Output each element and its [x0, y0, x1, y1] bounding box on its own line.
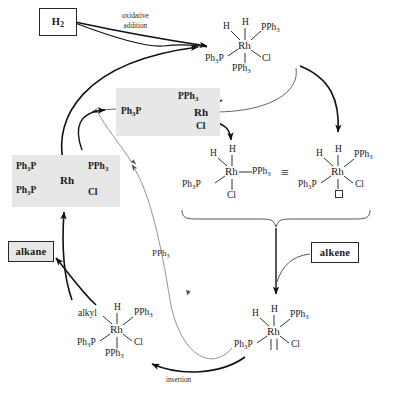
dihydride6-ligand-cl: Cl	[262, 54, 271, 64]
dihydrideV-ligand-h-left: H	[316, 149, 323, 159]
alkylC-ligand-alkyl: alkyl	[78, 309, 97, 319]
alkeneC-ligand-pph3: PPh3	[290, 310, 309, 320]
dihydrideV-ligand-pph3: PPh3	[354, 150, 373, 160]
catalyst-ligand-ph3p-lower: Ph3P	[16, 186, 36, 196]
annotation-insertion: insertion	[166, 376, 191, 386]
dihydride5-ligand-ph3p: Ph3P	[182, 180, 201, 190]
dihydrideV-ligand-ph3p: Ph3P	[298, 180, 317, 190]
vacant-coordination-site	[335, 190, 343, 198]
catalyst-metal-center: Rh	[60, 175, 74, 186]
alkeneC-ligand-h-top: H	[271, 305, 278, 315]
dihydride5-metal-center: Rh	[225, 166, 238, 177]
dihydride5-ligand-cl: Cl	[227, 191, 236, 201]
dihydride6-ligand-pph3-bottom: PPh3	[232, 64, 251, 74]
dihydride5-ligand-h-left: H	[210, 149, 217, 159]
dihydride6-ligand-h-top: H	[242, 18, 249, 28]
dihydride5-ligand-pph3-right: PPh3	[252, 167, 271, 177]
catalyst-ligand-pph3: PPh3	[88, 162, 108, 172]
h2-label: H2	[52, 16, 64, 29]
dihydride6-ligand-ph3p: Ph3P	[205, 54, 224, 64]
dihydride6-ligand-pph3-upper: PPh3	[261, 23, 280, 33]
alkylC-ligand-pph3-bottom: PPh3	[105, 349, 124, 359]
dihydrideV-ligand-h-top: H	[335, 145, 342, 155]
alkeneC-ligand-cl: Cl	[291, 340, 300, 350]
dihydrideV-metal-center: Rh	[331, 166, 344, 177]
alkene-label: alkene	[320, 247, 350, 258]
dihydride6-ligand-h-left: H	[223, 22, 230, 32]
reagent-box-h2[interactable]: H2	[39, 8, 77, 36]
three-coord-ligand-pph3: PPh3	[178, 92, 198, 102]
annotation-oxidative-addition: oxidative addition	[122, 12, 149, 31]
alkane-label: alkane	[16, 246, 47, 257]
three-coord-ligand-ph3p: Ph3P	[121, 107, 141, 117]
dihydride5-ligand-h-top: H	[229, 145, 236, 155]
dihydrideV-ligand-cl: Cl	[355, 180, 364, 190]
reagent-box-alkene[interactable]: alkene	[311, 242, 359, 263]
catalyst-ligand-ph3p-upper: Ph3P	[16, 162, 36, 172]
annotation-pph3-released: PPh3	[152, 247, 170, 260]
catalyst-ligand-cl: Cl	[88, 188, 98, 198]
three-coord-metal-center: Rh	[194, 107, 208, 118]
oxidative-line-2: addition	[122, 22, 149, 32]
three-coord-ligand-cl: Cl	[196, 122, 206, 132]
alkeneC-ligand-h-left: H	[252, 309, 259, 319]
alkylC-ligand-ph3p: Ph3P	[77, 338, 96, 348]
alkeneC-metal-center: Rh	[267, 326, 280, 337]
product-box-alkane[interactable]: alkane	[8, 241, 54, 262]
alkylC-metal-center: Rh	[110, 324, 123, 335]
alkylC-ligand-h-top: H	[114, 303, 121, 313]
oxidative-line-1: oxidative	[122, 12, 149, 22]
dihydride6-metal-center: Rh	[238, 40, 251, 51]
catalytic-cycle-diagram: H2 alkane alkene oxidative addition PPh3…	[0, 0, 396, 394]
equivalent-symbol: ≡	[281, 166, 289, 180]
alkylC-ligand-cl: Cl	[134, 338, 143, 348]
alkylC-ligand-pph3-upper: PPh3	[134, 308, 153, 318]
alkeneC-ligand-ph3p: Ph3P	[234, 340, 253, 350]
